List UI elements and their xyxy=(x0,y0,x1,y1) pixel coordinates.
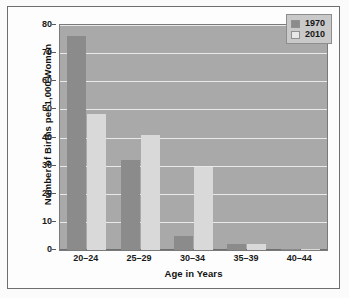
x-tick-label-35–39: 35–39 xyxy=(233,253,258,263)
y-tick-label-20: 20 xyxy=(42,188,52,198)
y-tick-label-70: 70 xyxy=(42,47,52,57)
gridline-70 xyxy=(60,53,327,54)
figure-root: Number of Births per 1,000 Women 8070605… xyxy=(0,0,349,298)
y-tick-label-60: 60 xyxy=(42,75,52,85)
bar-1970-35–39 xyxy=(227,244,246,250)
gridline-50 xyxy=(60,109,327,110)
legend-swatch-2010-icon xyxy=(291,31,300,39)
y-tick-mark-20 xyxy=(52,193,56,194)
legend-swatch-1970-icon xyxy=(291,20,300,28)
legend-label-2010: 2010 xyxy=(305,29,325,40)
y-tick-label-40: 40 xyxy=(42,132,52,142)
gridline-60 xyxy=(60,81,327,82)
bar-2010-30–34 xyxy=(194,167,213,250)
y-tick-mark-30 xyxy=(52,165,56,166)
bar-2010-25–29 xyxy=(141,135,160,250)
y-tick-label-50: 50 xyxy=(42,103,52,113)
bar-1970-25–29 xyxy=(121,160,140,250)
bar-2010-35–39 xyxy=(247,244,266,250)
x-axis-title: Age in Years xyxy=(59,268,328,279)
bar-1970-40–44 xyxy=(281,249,300,250)
x-tick-label-20–24: 20–24 xyxy=(73,253,98,263)
bar-chart: Number of Births per 1,000 Women 8070605… xyxy=(8,7,341,290)
bar-1970-30–34 xyxy=(174,236,193,250)
figure-border-frame: Number of Births per 1,000 Women 8070605… xyxy=(7,6,340,289)
y-tick-mark-60 xyxy=(52,80,56,81)
y-tick-label-30: 30 xyxy=(42,160,52,170)
x-tick-label-30–34: 30–34 xyxy=(180,253,205,263)
y-tick-mark-50 xyxy=(52,108,56,109)
bar-2010-40–44 xyxy=(301,249,320,250)
y-tick-label-10: 10 xyxy=(42,216,52,226)
bar-2010-20–24 xyxy=(87,114,106,250)
y-tick-label-80: 80 xyxy=(42,19,52,29)
x-axis: 20–2425–2930–3435–3940–44 xyxy=(59,253,328,267)
x-tick-label-40–44: 40–44 xyxy=(287,253,312,263)
legend: 19702010 xyxy=(286,14,332,44)
y-axis: 80706050403020100 xyxy=(21,24,56,251)
bar-1970-20–24 xyxy=(67,36,86,250)
y-tick-mark-80 xyxy=(52,24,56,25)
x-tick-label-25–29: 25–29 xyxy=(127,253,152,263)
legend-item-2010: 2010 xyxy=(291,29,325,40)
y-tick-mark-70 xyxy=(52,52,56,53)
y-tick-mark-10 xyxy=(52,221,56,222)
y-tick-mark-40 xyxy=(52,137,56,138)
legend-label-1970: 1970 xyxy=(305,18,325,29)
legend-item-1970: 1970 xyxy=(291,18,325,29)
y-tick-mark-0 xyxy=(52,249,56,250)
plot-area xyxy=(59,24,328,251)
